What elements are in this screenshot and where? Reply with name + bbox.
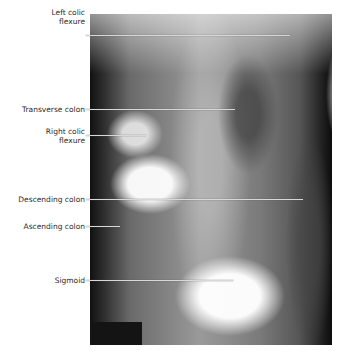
label-sigmoid: Sigmoid [55,276,85,285]
image-corner-marker [90,322,142,345]
leader-line-transverse-colon [86,109,235,110]
label-transverse-colon: Transverse colon [22,105,85,114]
leader-line-descending-colon [86,199,303,200]
leader-line-sigmoid [86,280,233,281]
label-text-line2: flexure [46,136,85,145]
leader-line-right-colic-flexure [86,135,146,136]
label-left-colic-flexure: Left colic flexure [52,8,86,26]
label-text-line1: Right colic [46,127,85,136]
label-text-line1: Transverse colon [22,105,85,114]
xray-image [90,14,332,345]
annotated-colon-radiograph: Left colic flexure Transverse colon Righ… [0,0,345,359]
label-text-line1: Descending colon [18,195,85,204]
leader-line-left-colic-flexure [86,35,290,36]
label-text-line1: Ascending colon [24,222,85,231]
label-descending-colon: Descending colon [18,195,85,204]
leader-line-ascending-colon [86,226,120,227]
label-text-line1: Left colic [52,8,86,17]
label-ascending-colon: Ascending colon [24,222,85,231]
label-right-colic-flexure: Right colic flexure [46,127,85,145]
label-text-line2: flexure [52,17,86,26]
label-text-line1: Sigmoid [55,276,85,285]
